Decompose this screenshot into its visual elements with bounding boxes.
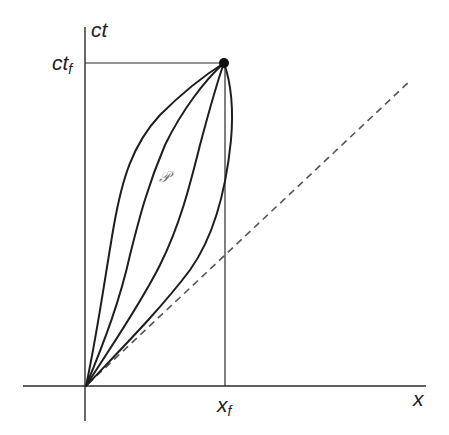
x-f-subscript: f <box>228 403 232 419</box>
worldline-path-3 <box>86 63 224 386</box>
worldline-path-2 <box>86 63 224 386</box>
ct-axis-label: ct <box>91 19 107 40</box>
ct-f-tick-label: ctf <box>52 52 72 76</box>
worldline-path-1 <box>86 63 224 386</box>
x-axis-label: x <box>413 388 424 409</box>
event-dot <box>219 58 229 68</box>
x-f-tick-label: xf <box>217 394 231 418</box>
ct-f-subscript: f <box>68 61 72 77</box>
spacetime-diagram: ct ctf xf x 𝒫 <box>0 0 449 435</box>
x-f-base: x <box>217 393 228 416</box>
ct-f-base: ct <box>52 51 68 74</box>
region-p-label: 𝒫 <box>159 170 170 185</box>
